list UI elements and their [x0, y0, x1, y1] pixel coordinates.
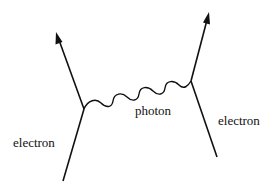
left-arrowhead-icon — [56, 32, 63, 45]
photon-label: photon — [135, 103, 172, 118]
feynman-diagram: electron photon electron — [0, 0, 278, 191]
right-electron-line — [191, 12, 217, 157]
left-electron-line — [56, 32, 85, 181]
right-electron-label: electron — [218, 113, 260, 128]
right-arrowhead-icon — [203, 12, 210, 25]
left-electron-label: electron — [13, 135, 55, 150]
